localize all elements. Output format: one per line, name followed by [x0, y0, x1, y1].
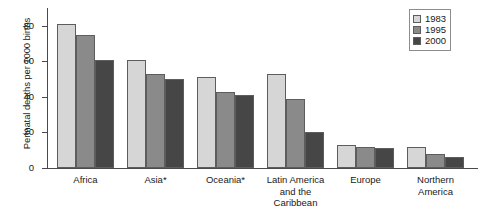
y-tick-label: 80 [0, 21, 34, 30]
bar-group [267, 8, 324, 168]
bar-group [127, 8, 184, 168]
y-tick [42, 26, 47, 27]
y-tick [42, 168, 47, 169]
bar [426, 154, 445, 168]
bar-group [337, 8, 394, 168]
bar [445, 157, 464, 168]
bar [375, 148, 394, 168]
legend-label: 1995 [425, 25, 446, 34]
y-tick [42, 97, 47, 98]
bar [57, 24, 76, 168]
bar-group [57, 8, 114, 168]
bar [95, 60, 114, 168]
bar [76, 35, 95, 168]
legend-swatch-icon [413, 15, 421, 23]
y-tick-label: 40 [0, 92, 34, 101]
x-axis-label: Northern America [386, 174, 478, 197]
legend-label: 2000 [425, 36, 446, 45]
bar [197, 77, 216, 168]
bar [267, 74, 286, 168]
legend-swatch-icon [413, 26, 421, 34]
bar [216, 92, 235, 168]
legend-swatch-icon [413, 37, 421, 45]
bar [286, 99, 305, 168]
y-tick-label: 20 [0, 127, 34, 136]
y-tick [42, 132, 47, 133]
bar [235, 95, 254, 168]
bar [165, 79, 184, 168]
bar-chart: Perinatal deaths per 1000 births 0204060… [0, 0, 478, 216]
y-tick-label: 0 [0, 163, 34, 172]
y-tick [42, 61, 47, 62]
bar [356, 147, 375, 168]
bar [337, 145, 356, 168]
bar [305, 132, 324, 168]
bar [146, 74, 165, 168]
legend: 198319952000 [409, 9, 451, 51]
bar [127, 60, 146, 168]
bar-group [197, 8, 254, 168]
legend-item: 1995 [413, 25, 446, 36]
legend-item: 2000 [413, 36, 446, 47]
y-tick-label: 60 [0, 56, 34, 65]
legend-item: 1983 [413, 14, 446, 25]
legend-label: 1983 [425, 14, 446, 23]
bar [407, 147, 426, 168]
x-axis-line [47, 168, 478, 169]
